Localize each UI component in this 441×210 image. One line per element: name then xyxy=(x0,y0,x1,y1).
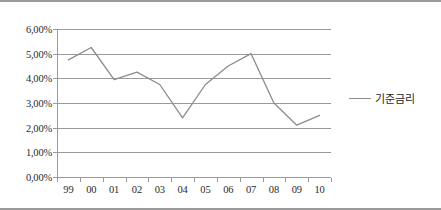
x-tick-label: 06 xyxy=(223,184,233,195)
y-tick-label: 5,00% xyxy=(26,48,52,59)
y-tick-mark xyxy=(53,29,57,30)
y-tick-label: 3,00% xyxy=(26,98,52,109)
y-tick-label: 0,00% xyxy=(26,172,52,183)
x-tick-mark xyxy=(80,178,81,182)
series-line-기준금리 xyxy=(57,29,331,177)
x-tick-label: 02 xyxy=(132,184,142,195)
y-tick-mark xyxy=(53,128,57,129)
x-tick-mark xyxy=(285,178,286,182)
y-tick-label: 2,00% xyxy=(26,122,52,133)
x-tick-mark xyxy=(331,178,332,182)
x-tick-label: 00 xyxy=(86,184,96,195)
x-tick-label: 05 xyxy=(200,184,210,195)
chart-figure: 0,00%1,00%2,00%3,00%4,00%5,00%6,00% 9900… xyxy=(0,0,441,210)
x-tick-label: 99 xyxy=(63,184,73,195)
x-tick-label: 08 xyxy=(269,184,279,195)
x-tick-mark xyxy=(240,178,241,182)
y-tick-mark xyxy=(53,78,57,79)
y-tick-label: 1,00% xyxy=(26,147,52,158)
x-tick-mark xyxy=(103,178,104,182)
x-tick-label: 07 xyxy=(246,184,256,195)
legend-item-label: 기준금리 xyxy=(375,90,415,106)
y-tick-label: 4,00% xyxy=(26,73,52,84)
x-tick-label: 01 xyxy=(109,184,119,195)
x-tick-label: 04 xyxy=(178,184,188,195)
x-tick-mark xyxy=(171,178,172,182)
legend-line-swatch-icon xyxy=(349,98,371,99)
x-tick-mark xyxy=(126,178,127,182)
x-tick-label: 10 xyxy=(315,184,325,195)
plot-area xyxy=(57,29,331,177)
x-tick-mark xyxy=(263,178,264,182)
x-tick-mark xyxy=(217,178,218,182)
y-tick-mark xyxy=(53,103,57,104)
x-tick-mark xyxy=(308,178,309,182)
x-tick-mark xyxy=(57,178,58,182)
y-tick-label: 6,00% xyxy=(26,24,52,35)
y-tick-mark xyxy=(53,54,57,55)
chart-legend: 기준금리 xyxy=(349,90,415,106)
x-tick-label: 03 xyxy=(155,184,165,195)
x-tick-label: 09 xyxy=(292,184,302,195)
y-tick-mark xyxy=(53,152,57,153)
x-tick-mark xyxy=(194,178,195,182)
x-tick-mark xyxy=(148,178,149,182)
